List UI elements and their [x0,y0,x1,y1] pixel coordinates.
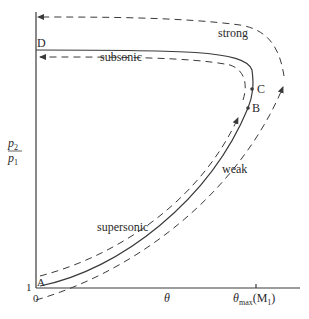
x-axis-theta-max-label: θmax(M1) [233,291,275,307]
supersonic-label: supersonic [97,220,148,234]
point-b-label: B [252,101,260,115]
point-a-label: A [37,276,45,288]
strong-label: strong [218,26,248,40]
subsonic-label: subsonic [100,50,142,64]
subsonic-dashed-path [40,57,245,100]
x-axis-label-theta: θ [164,291,170,305]
shock-polar-curve [36,50,253,286]
weak-label: weak [222,162,247,176]
weak-dashed-path [36,87,283,300]
x-origin-tick-label: 0 [33,292,39,304]
point-c-marker [250,87,254,91]
y-axis-label-numerator: p2 [7,136,18,152]
y-axis-label-denominator: p1 [7,151,18,167]
point-b-marker [246,106,250,110]
y-origin-tick-label: 1 [26,281,32,293]
point-d-label: D [37,36,46,50]
shock-polar-diagram: D C B A strong subsonic supersonic weak … [0,0,309,319]
point-c-label: C [257,82,265,96]
